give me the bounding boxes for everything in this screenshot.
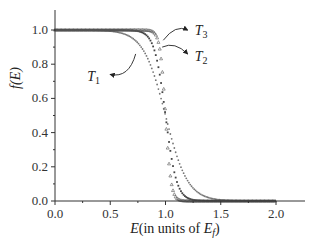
data-point (181, 169, 183, 171)
data-point (170, 183, 173, 186)
ticks (51, 30, 276, 205)
data-point (156, 60, 158, 62)
data-point (176, 155, 178, 157)
plot-series (54, 28, 277, 202)
data-point (136, 41, 138, 43)
data-point (188, 182, 190, 184)
x-tick-label: 1.0 (157, 206, 173, 221)
x-tick-label: 2.0 (268, 206, 284, 221)
data-point (169, 133, 171, 135)
data-point (164, 107, 167, 110)
data-point (154, 75, 156, 77)
data-point (193, 188, 195, 190)
data-point (187, 180, 189, 182)
data-point (158, 88, 160, 90)
annotation-arrow (162, 45, 187, 54)
data-point (138, 43, 140, 45)
data-point (155, 79, 157, 81)
data-point (159, 74, 161, 76)
annotation-label: T2 (195, 49, 208, 66)
data-point (172, 165, 174, 167)
data-point (160, 57, 163, 60)
data-point (151, 67, 153, 69)
y-tick-label: 1.0 (32, 22, 48, 37)
y-tick-label: 0.2 (32, 159, 48, 174)
data-point (169, 150, 171, 152)
axes (55, 10, 305, 201)
data-point (167, 123, 169, 125)
data-point (169, 174, 172, 177)
data-point (180, 190, 182, 192)
data-point (159, 93, 161, 95)
annotation-arrow (163, 28, 187, 40)
annotation-T3: T3 (163, 23, 207, 40)
data-point (177, 159, 179, 161)
data-point (150, 64, 152, 66)
data-point (147, 58, 149, 60)
y-tick-label: 0.6 (32, 90, 49, 105)
data-point (148, 38, 150, 40)
data-point (166, 146, 169, 149)
data-point (143, 50, 145, 52)
data-point (168, 128, 170, 130)
data-point (135, 40, 137, 42)
data-point (175, 151, 177, 153)
data-point (171, 138, 173, 140)
fermi-dirac-chart: 0.00.51.01.52.00.00.20.40.60.81.0 f(E) E… (0, 0, 316, 252)
data-point (160, 82, 162, 84)
data-point (162, 87, 165, 90)
data-point (165, 127, 168, 130)
x-tick-label: 0.5 (102, 206, 118, 221)
y-tick-label: 0.8 (32, 56, 48, 71)
y-axis-title-text: f(E) (8, 67, 24, 89)
data-point (161, 70, 164, 73)
y-tick-label: 0.0 (32, 193, 48, 208)
data-point (160, 98, 162, 100)
x-tick-label: 0.0 (47, 206, 63, 221)
data-point (154, 49, 156, 51)
data-point (168, 141, 170, 143)
data-point (172, 143, 174, 145)
data-point (155, 54, 157, 56)
data-point (167, 131, 169, 133)
annotation-label: T1 (87, 69, 100, 86)
data-point (139, 44, 141, 46)
data-point (185, 177, 187, 179)
data-point (184, 175, 186, 177)
tick-labels: 0.00.51.01.52.00.00.20.40.60.81.0 (32, 22, 284, 221)
data-point (172, 189, 175, 192)
data-point (191, 185, 193, 187)
data-point (181, 192, 183, 194)
data-point (179, 163, 181, 165)
data-point (189, 184, 191, 186)
series-T3 (54, 28, 277, 202)
y-tick-label: 0.4 (32, 125, 49, 140)
annotation-arrow (110, 54, 135, 75)
y-axis-title: f(E) (8, 67, 24, 89)
data-point (162, 103, 164, 105)
data-point (148, 61, 150, 63)
data-point (140, 46, 142, 48)
data-point (152, 46, 154, 48)
data-point (168, 162, 171, 165)
data-point (165, 118, 167, 120)
data-point (154, 33, 157, 36)
data-point (180, 166, 182, 168)
data-point (173, 147, 175, 149)
data-point (151, 42, 153, 44)
data-point (183, 172, 185, 174)
data-point (152, 71, 154, 73)
data-point (192, 187, 194, 189)
annotation-T1: T1 (87, 54, 135, 86)
data-point (146, 55, 148, 57)
series-T1 (54, 29, 276, 202)
data-point (156, 84, 158, 86)
data-point (158, 66, 160, 68)
data-point (173, 171, 175, 173)
data-point (147, 36, 149, 38)
data-point (162, 91, 164, 93)
data-point (176, 181, 178, 183)
x-axis-title: E(in units of Ef) (129, 221, 220, 238)
data-point (165, 121, 167, 123)
data-point (171, 158, 173, 160)
